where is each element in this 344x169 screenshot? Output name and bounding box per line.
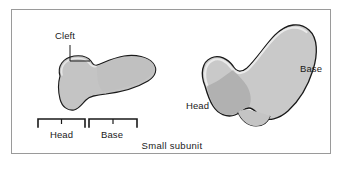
- label-cleft: Cleft: [55, 31, 75, 41]
- figure-caption: Small subunit: [0, 140, 344, 151]
- label-base-right: Base: [300, 64, 322, 74]
- left-subunit-shape: [59, 55, 156, 110]
- right-subunit-shape: [202, 25, 316, 126]
- label-base-left: Base: [101, 130, 123, 140]
- label-head-left: Head: [50, 130, 73, 140]
- base-bracket-left: [89, 119, 137, 127]
- figure-small-subunit: Cleft Head Base Base Head Small subunit: [0, 0, 344, 169]
- label-head-right: Head: [186, 101, 209, 111]
- head-bracket-left: [38, 119, 85, 127]
